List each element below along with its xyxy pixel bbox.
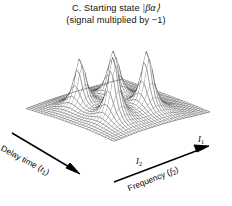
tick-i2-subscript: 2 [139, 160, 142, 167]
tick-label-i2: I2 [136, 156, 142, 167]
wireframe-mesh [26, 51, 210, 141]
delay-time-arrowhead [66, 163, 80, 174]
tick-label-i1: I1 [198, 134, 204, 145]
tick-i1-subscript: 1 [201, 138, 204, 145]
frequency-arrowhead [194, 145, 209, 152]
surface-plot-canvas [0, 0, 232, 206]
figure-panel-c: C. Starting state |βα⟩ (signal multiplie… [0, 0, 232, 206]
